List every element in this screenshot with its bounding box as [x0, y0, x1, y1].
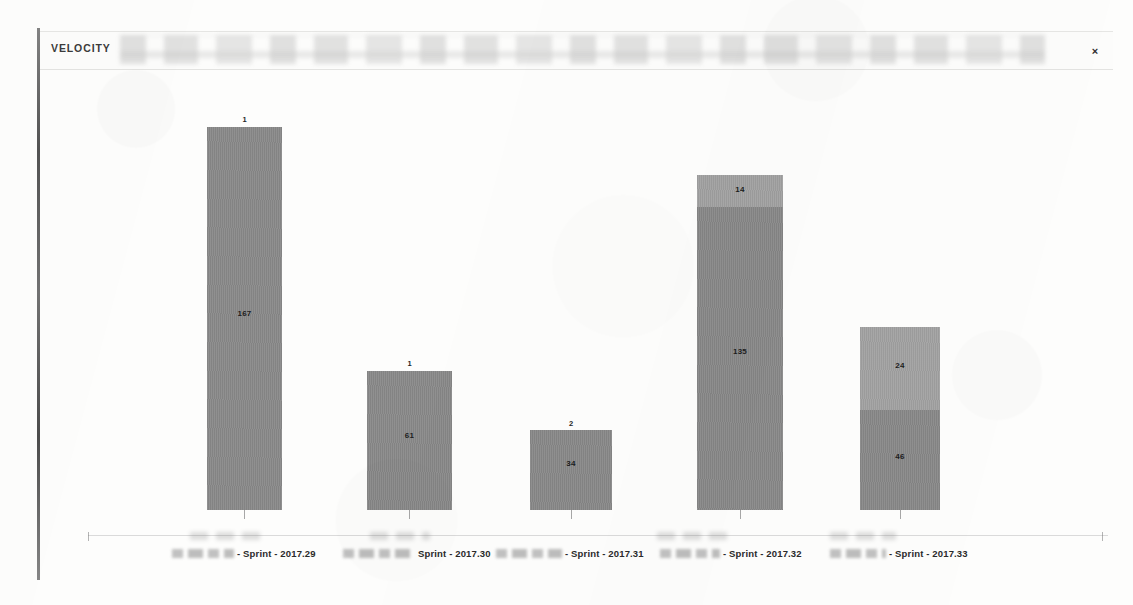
bar-segment[interactable]: 14	[697, 175, 783, 207]
page-title: VELOCITY	[51, 42, 111, 54]
x-axis-tick	[900, 510, 901, 519]
x-axis-tick	[409, 510, 410, 519]
bar-group[interactable]: 1 61	[367, 371, 452, 510]
bar-segment-value: 24	[860, 361, 940, 370]
bar-group[interactable]: 24 46	[860, 327, 940, 510]
bar-segment-value: 61	[367, 431, 452, 440]
bar-segment[interactable]: 135	[697, 207, 783, 510]
scan-artifact	[190, 532, 268, 540]
bar-group[interactable]: 2 34	[530, 430, 612, 510]
x-axis-category-label: Sprint - 2017.30	[343, 548, 491, 559]
header-redacted-band	[120, 35, 1045, 64]
bar-segment[interactable]: 46	[860, 410, 940, 510]
x-axis-start-tick	[88, 532, 89, 541]
bar-segment-value: 135	[697, 347, 783, 356]
redacted-text	[830, 549, 886, 558]
bar-group[interactable]: 14 135	[697, 175, 783, 510]
redacted-text	[172, 549, 234, 558]
x-axis-tick	[244, 510, 245, 519]
bar-segment-value: 34	[530, 459, 612, 468]
x-axis-category-label: - Sprint - 2017.31	[496, 548, 644, 559]
chart-plot-area: 1 167 1 61 2 34 14	[40, 70, 1113, 580]
x-axis-tick	[571, 510, 572, 519]
scan-artifact	[830, 532, 896, 540]
bar-group[interactable]: 1 167	[207, 127, 282, 510]
redacted-text	[496, 549, 562, 558]
bar-segment[interactable]: 34	[530, 430, 612, 510]
scan-artifact	[657, 532, 727, 540]
bar-segment[interactable]: 61	[367, 371, 452, 510]
x-axis-tick	[740, 510, 741, 519]
bar-segment[interactable]: 24	[860, 327, 940, 410]
bar-segment[interactable]: 167	[207, 127, 282, 510]
bar-top-label: 1	[367, 359, 452, 368]
bar-segment-value: 167	[207, 309, 282, 318]
x-axis-category-label: - Sprint - 2017.33	[830, 548, 968, 559]
x-axis-category-label: - Sprint - 2017.32	[660, 548, 802, 559]
redacted-text	[343, 549, 415, 558]
scan-artifact	[370, 532, 430, 540]
bar-segment-value: 14	[697, 185, 783, 194]
x-axis-category-label: - Sprint - 2017.29	[172, 548, 316, 559]
velocity-chart-window: VELOCITY × 1 167 1 61 2	[0, 0, 1133, 605]
redacted-text	[660, 549, 720, 558]
panel-left-border	[37, 28, 40, 580]
bar-top-label: 1	[207, 115, 282, 124]
x-axis-end-tick	[1102, 532, 1103, 541]
bar-top-label: 2	[530, 419, 612, 428]
close-icon[interactable]: ×	[1088, 44, 1102, 58]
bar-segment-value: 46	[860, 452, 940, 461]
